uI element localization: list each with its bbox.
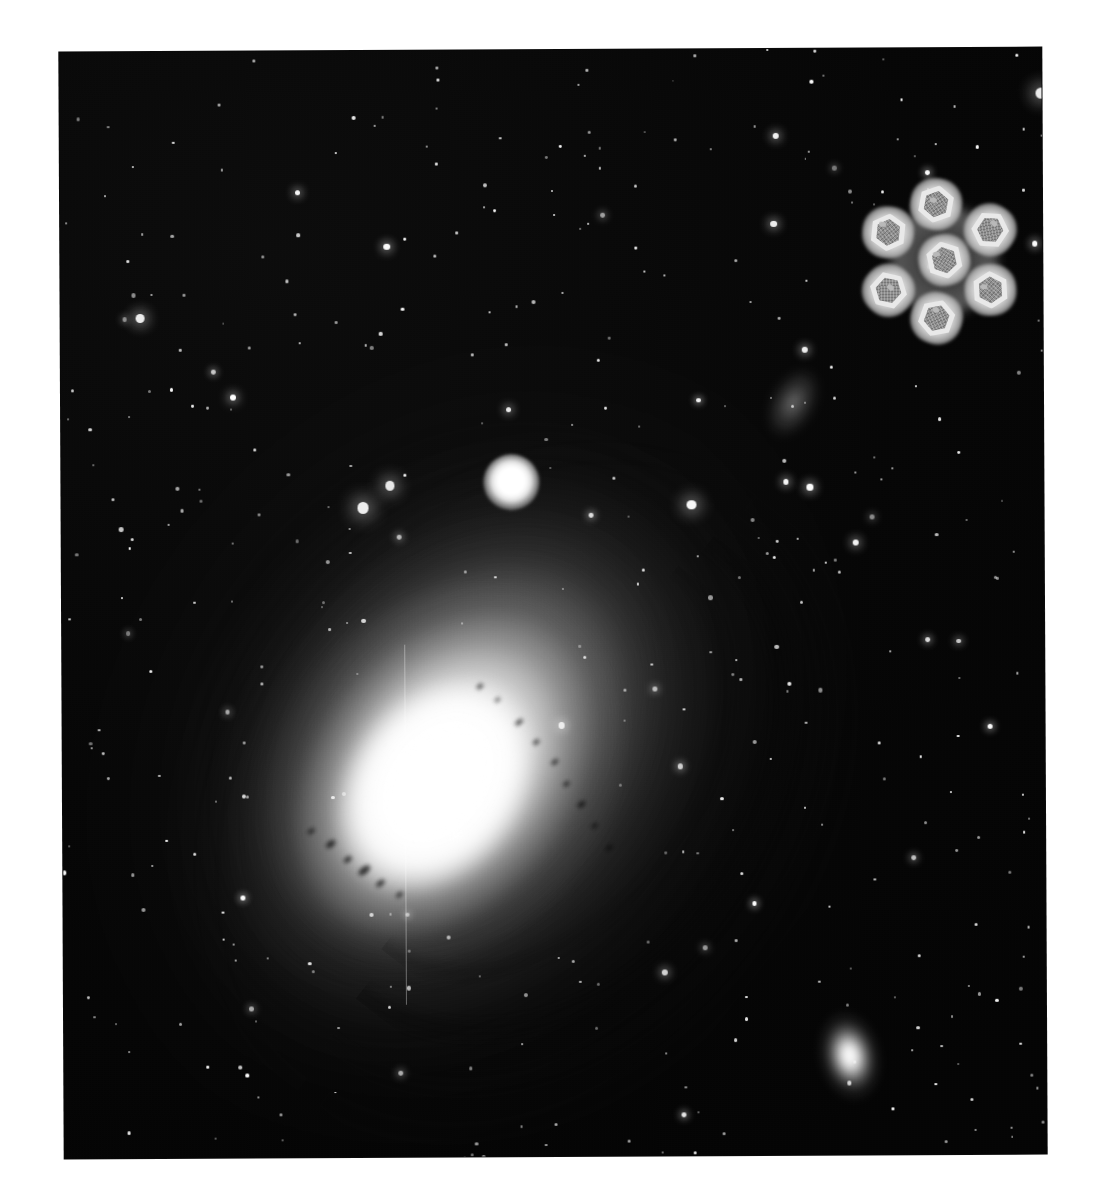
image-canvas (0, 0, 1100, 1200)
companion-galaxy-m32 (483, 454, 539, 510)
star (1044, 609, 1047, 613)
star (464, 1156, 466, 1158)
star (112, 48, 114, 50)
star (61, 1027, 63, 1029)
photographic-plate (59, 48, 1046, 1159)
sky-background (59, 48, 1046, 1159)
star (469, 1157, 472, 1158)
